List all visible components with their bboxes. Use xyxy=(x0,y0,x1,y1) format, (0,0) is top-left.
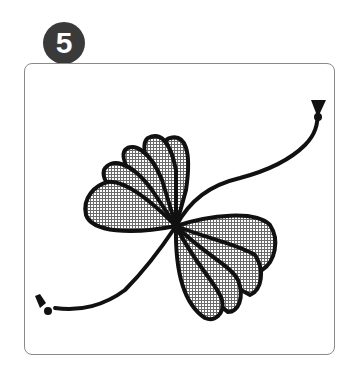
paper-fan-bow-illustration xyxy=(0,0,360,373)
lower-fan-icon xyxy=(176,216,275,319)
upper-fan-icon xyxy=(85,136,188,231)
